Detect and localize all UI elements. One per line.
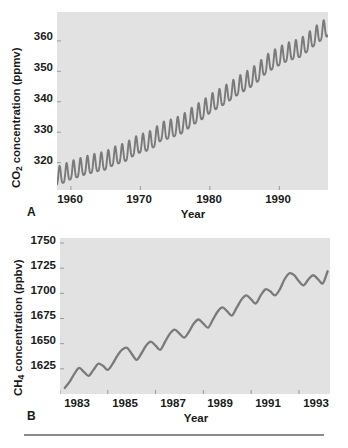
panel-a-xtick-1960: 1960 [57,194,83,206]
panel-a-xtick-1980: 1980 [196,194,222,206]
panel-b-ytick-1725: 1725 [30,260,56,272]
panel-b-y-label-prefix: CH [12,380,24,396]
panel-b-ytick-1625: 1625 [30,360,56,372]
panel-b-y-label-subscript: 4 [16,375,26,380]
panel-b-data-plot [60,238,330,394]
panel-b-y-axis-label: CH4 concentration (ppbv) [12,259,24,396]
panel-b-xtick-1987: 1987 [160,398,186,410]
panel-b-ytick-1650: 1650 [30,335,56,347]
panel-a-co2: 360 350 340 330 320 CO2 concentration (p… [0,0,348,224]
panel-a-letter: A [27,206,36,218]
panel-b-ytick-1700: 1700 [30,285,56,297]
panel-a-ytick-330: 330 [34,124,53,136]
panel-b-ytick-1750: 1750 [30,235,56,247]
panel-b-letter: B [27,410,36,422]
panel-b-ch4: 1750 1725 1700 1675 1650 1625 CH4 concen… [0,224,348,424]
panel-b-y-label-suffix: concentration (ppbv) [12,259,24,374]
panel-a-ytick-320: 320 [34,155,53,167]
panel-a-x-axis-label: Year [181,208,205,220]
panel-b-y-tick-group: 1750 1725 1700 1675 1650 1625 [0,224,56,424]
panel-a-y-tick-group: 360 350 340 330 320 [0,0,53,224]
panel-b-ytick-1675: 1675 [30,310,56,322]
panel-b-plot-area [60,238,330,394]
panel-a-y-label-subscript: 2 [14,166,24,171]
panel-b-xtick-1985: 1985 [112,398,138,410]
panel-b-xtick-1993: 1993 [303,398,329,410]
panel-a-y-label-suffix: concentration (ppmv) [10,48,22,167]
panel-a-plot-area [57,12,328,190]
panel-b-xtick-1991: 1991 [255,398,281,410]
panel-a-xtick-1990: 1990 [265,194,291,206]
panel-b-x-axis-label: Year [184,412,208,424]
panel-a-y-label-prefix: CO [10,171,22,188]
panel-a-ytick-350: 350 [34,62,53,74]
panel-a-ytick-360: 360 [34,31,53,43]
panel-a-xtick-1970: 1970 [126,194,152,206]
panel-a-ytick-340: 340 [34,93,53,105]
panel-a-data-plot [57,12,328,190]
panel-a-y-axis-label: CO2 concentration (ppmv) [10,48,22,188]
panel-b-xtick-1989: 1989 [207,398,233,410]
panel-b-xtick-1983: 1983 [64,398,90,410]
figure-footer-rule [24,434,324,436]
figure-container: 360 350 340 330 320 CO2 concentration (p… [0,0,348,448]
